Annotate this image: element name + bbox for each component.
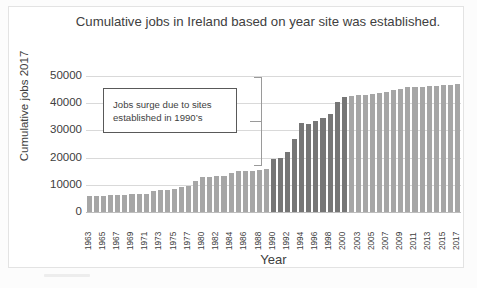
bar xyxy=(179,187,184,212)
bar xyxy=(405,87,410,212)
bar xyxy=(455,84,460,212)
bar xyxy=(328,114,333,212)
bar xyxy=(377,93,382,212)
x-tick-label: 1984 xyxy=(225,232,234,250)
annotation-line-2: established in 1990’s xyxy=(113,111,236,124)
bar xyxy=(172,189,177,212)
bar xyxy=(384,92,389,212)
brace-middle-tick xyxy=(250,121,262,122)
bar xyxy=(165,190,170,212)
x-tick-label: 1977 xyxy=(183,232,192,250)
x-tick-label: 1996 xyxy=(310,232,319,250)
bar xyxy=(207,177,212,212)
bar xyxy=(363,95,368,213)
bar xyxy=(193,181,198,212)
x-tick-label: 2005 xyxy=(367,232,376,250)
bar xyxy=(87,196,92,212)
annotation-textbox: Jobs surge due to sites established in 1… xyxy=(103,88,237,133)
bar xyxy=(313,121,318,212)
chart-title: Cumulative jobs in Ireland based on year… xyxy=(58,14,458,30)
bar xyxy=(342,97,347,212)
x-tick-label: 2007 xyxy=(381,232,390,250)
y-tick-label: 40000 xyxy=(30,96,82,108)
bar xyxy=(370,94,375,212)
x-tick-label: 2017 xyxy=(452,232,461,250)
x-tick-label: 2015 xyxy=(438,232,447,250)
bar xyxy=(221,176,226,212)
brace-bottom-tick xyxy=(254,165,262,166)
bar xyxy=(398,89,403,212)
bar xyxy=(101,196,106,212)
x-tick-label: 1990 xyxy=(268,232,277,250)
y-tick-label: 30000 xyxy=(30,123,82,135)
y-tick-label: 0 xyxy=(30,205,82,217)
bar xyxy=(420,87,425,212)
x-tick-label: 1980 xyxy=(197,232,206,250)
bar xyxy=(441,85,446,212)
bar xyxy=(158,190,163,212)
bar xyxy=(299,123,304,212)
x-tick-label: 2011 xyxy=(409,232,418,250)
x-tick-label: 2000 xyxy=(338,232,347,250)
bar xyxy=(236,171,241,212)
bar xyxy=(278,158,283,212)
bar xyxy=(122,195,127,212)
bar xyxy=(229,173,234,212)
bar xyxy=(115,195,120,212)
y-axis-tick-labels: 50000400003000020000100000 xyxy=(24,76,82,212)
annotation-line-1: Jobs surge due to sites xyxy=(113,98,236,111)
bar xyxy=(186,186,191,212)
x-axis-title: Year xyxy=(86,252,461,267)
brace-top-tick xyxy=(254,77,262,78)
bar xyxy=(214,176,219,212)
x-tick-label: 1965 xyxy=(98,232,107,250)
bar xyxy=(250,171,255,212)
bar xyxy=(200,177,205,212)
x-tick-label: 1982 xyxy=(211,232,220,250)
x-tick-label: 2003 xyxy=(353,232,362,250)
bar xyxy=(306,124,311,212)
x-tick-label: 1986 xyxy=(239,232,248,250)
x-tick-label: 1998 xyxy=(324,232,333,250)
x-tick-label: 1969 xyxy=(126,232,135,250)
bar xyxy=(129,194,134,212)
x-tick-label: 1963 xyxy=(84,232,93,250)
bar xyxy=(335,102,340,212)
bar xyxy=(144,194,149,212)
bar xyxy=(94,196,99,212)
y-tick-label: 50000 xyxy=(30,69,82,81)
bar xyxy=(448,85,453,212)
x-tick-label: 1988 xyxy=(254,232,263,250)
x-tick-label: 1992 xyxy=(282,232,291,250)
scan-artifact xyxy=(44,274,90,277)
bar xyxy=(243,171,248,212)
bar xyxy=(412,87,417,212)
bar xyxy=(427,86,432,212)
y-tick-label: 10000 xyxy=(30,178,82,190)
bar xyxy=(271,159,276,212)
annotation-brace xyxy=(250,77,264,166)
bar xyxy=(108,195,113,212)
x-tick-label: 1973 xyxy=(154,232,163,250)
bar xyxy=(349,96,354,212)
y-tick-label: 20000 xyxy=(30,151,82,163)
bar xyxy=(264,169,269,212)
bar xyxy=(391,90,396,212)
x-tick-label: 2009 xyxy=(395,232,404,250)
x-tick-label: 1975 xyxy=(169,232,178,250)
x-tick-label: 2013 xyxy=(423,232,432,250)
bar xyxy=(434,86,439,212)
x-axis-line xyxy=(86,212,461,213)
bar xyxy=(151,191,156,212)
x-tick-label: 1967 xyxy=(112,232,121,250)
x-tick-label: 1971 xyxy=(140,232,149,250)
bar xyxy=(292,139,297,212)
bar xyxy=(257,170,262,212)
bar xyxy=(320,118,325,212)
bar xyxy=(285,152,290,212)
x-tick-label: 1994 xyxy=(296,232,305,250)
bar xyxy=(137,194,142,212)
figure-container: Cumulative jobs in Ireland based on year… xyxy=(0,0,477,288)
bar xyxy=(356,95,361,212)
x-axis-tick-labels: 1963196519671969197119731975197719801982… xyxy=(86,214,461,250)
